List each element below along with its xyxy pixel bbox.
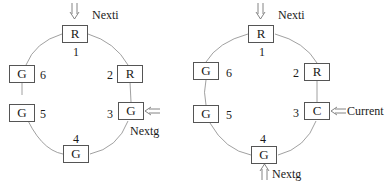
node-6: G bbox=[9, 65, 35, 83]
node-5-index: 5 bbox=[40, 108, 46, 120]
nexti-arrow-icon-right bbox=[256, 3, 265, 19]
node-6: G bbox=[193, 62, 219, 80]
node-2-index: 2 bbox=[293, 67, 299, 79]
node-6-index: 6 bbox=[226, 67, 232, 79]
current-arrow-icon bbox=[331, 107, 346, 115]
nextg-label: Nextg bbox=[130, 125, 159, 137]
node-2-index: 2 bbox=[107, 69, 113, 81]
node-4-index: 4 bbox=[73, 133, 79, 145]
node-2: R bbox=[117, 65, 143, 83]
node-5-index: 5 bbox=[226, 109, 232, 121]
node-1: R bbox=[248, 25, 274, 43]
node-5: G bbox=[9, 104, 35, 122]
node-2: R bbox=[304, 63, 330, 81]
nexti-label: Nexti bbox=[92, 9, 119, 21]
node-5: G bbox=[193, 105, 219, 123]
current-label: Current bbox=[347, 105, 384, 117]
node-4-index: 4 bbox=[260, 133, 266, 145]
node-3: G bbox=[118, 102, 144, 120]
nexti-arrow-icon-left bbox=[70, 3, 79, 19]
node-6-index: 6 bbox=[40, 69, 46, 81]
node-4: G bbox=[63, 145, 89, 163]
nextg-label: Nextg bbox=[272, 168, 301, 180]
node-3-current: C bbox=[304, 102, 330, 120]
nextg-arrow-icon-left bbox=[145, 107, 160, 115]
node-3-index: 3 bbox=[107, 108, 113, 120]
ring-connectors bbox=[0, 0, 386, 181]
node-4: G bbox=[251, 146, 277, 164]
node-3-index: 3 bbox=[293, 107, 299, 119]
nexti-label: Nexti bbox=[278, 9, 305, 21]
node-1-index: 1 bbox=[73, 46, 79, 58]
nextg-arrow-icon-right bbox=[260, 164, 269, 180]
node-1: R bbox=[62, 25, 88, 43]
node-1-index: 1 bbox=[259, 46, 265, 58]
